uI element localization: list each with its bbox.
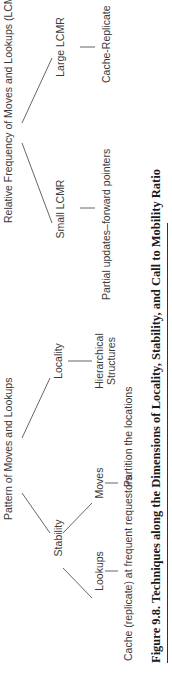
technique-cache-replicate-frequent: Cache (replicate) at frequent requestors <box>122 475 134 661</box>
tree-left-root: Pattern of Moves and Lookups <box>2 378 14 520</box>
rotated-figure-page: Pattern of Moves and Lookups Stability L… <box>0 0 172 683</box>
hierarchical-line1: Hierarchical <box>93 333 105 388</box>
caption-underline <box>167 223 168 663</box>
technique-cache-replicate: Cache-Replicate <box>100 5 112 83</box>
node-locality: Locality <box>52 343 64 379</box>
technique-partition-locations: Partition the locations <box>122 387 134 487</box>
node-lookups: Lookups <box>93 551 105 591</box>
node-small-lcmr: Small LCMR <box>54 180 66 239</box>
technique-partial-updates: Partial updates–forward pointers <box>100 149 112 300</box>
figure-caption: Figure 9.8. Techniques along the Dimensi… <box>149 169 164 663</box>
node-stability: Stability <box>52 520 64 557</box>
hierarchical-line2: Structures <box>105 333 117 388</box>
node-hierarchical-structures: Hierarchical Structures <box>93 333 117 388</box>
tree-right-root: Relative Frequency of Moves and Lookups … <box>2 0 14 223</box>
node-large-lcmr: Large LCMR <box>54 17 66 77</box>
tree-connector-lines <box>0 0 172 683</box>
node-moves: Moves <box>93 468 105 499</box>
